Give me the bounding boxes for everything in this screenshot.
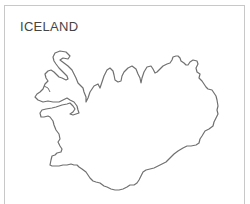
westfjords-inlet	[44, 86, 50, 92]
iceland-outline-map	[0, 0, 250, 204]
iceland-outline	[35, 51, 218, 190]
